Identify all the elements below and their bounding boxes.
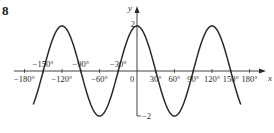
x-tick-label: 180° xyxy=(241,74,257,84)
y-tick-label: −2 xyxy=(142,111,151,121)
x-tick-label: −120° xyxy=(52,74,73,84)
x-tick-label: −90° xyxy=(72,59,89,69)
x-tick-label: 120° xyxy=(204,74,220,84)
x-tick-label: −180° xyxy=(14,74,35,84)
x-tick-label: 90° xyxy=(187,74,199,84)
y-axis-arrow-icon xyxy=(135,6,140,13)
x-axis-arrow-icon xyxy=(259,69,266,74)
y-axis-label: y xyxy=(127,3,132,13)
x-tick-label: 30° xyxy=(150,74,162,84)
x-tick-label: −30° xyxy=(110,59,127,69)
x-axis-label: x xyxy=(267,73,272,83)
x-tick-label: 150° xyxy=(223,74,239,84)
x-tick-label: −150° xyxy=(33,59,54,69)
x-tick-label: 60° xyxy=(169,74,181,84)
x-tick-label: −60° xyxy=(91,74,108,84)
cosine-graph: xy−180°−120°−60°30°60°90°120°150°180°−15… xyxy=(0,0,274,133)
origin-label: 0 xyxy=(130,74,134,84)
